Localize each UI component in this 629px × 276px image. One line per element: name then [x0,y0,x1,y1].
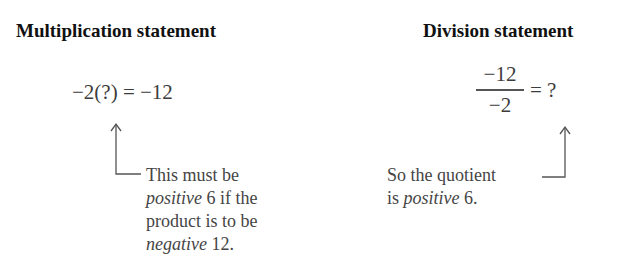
left-arrow-icon [111,124,141,174]
right-arrow-icon [542,127,570,177]
arrows-layer [0,0,629,276]
